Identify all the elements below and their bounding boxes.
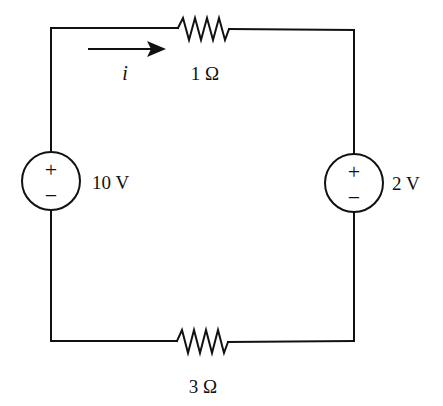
top-wire-right xyxy=(229,29,354,30)
bottom-wire-right xyxy=(228,341,354,342)
v1-plus-sign: + xyxy=(45,157,57,182)
resistor-r1-label: 1 Ω xyxy=(191,63,219,84)
current-label: i xyxy=(122,62,128,84)
v2-minus-sign: − xyxy=(348,185,360,210)
circuit-diagram: + − + − i 1 Ω 3 Ω 10 V 2 V xyxy=(0,0,443,406)
source-v2-label: 2 V xyxy=(392,173,420,194)
v2-plus-sign: + xyxy=(348,159,360,184)
resistor-r2-label: 3 Ω xyxy=(189,376,217,397)
resistor-r2-icon xyxy=(177,330,228,353)
resistor-r1-icon xyxy=(178,18,229,40)
source-v1-label: 10 V xyxy=(92,172,129,193)
v1-minus-sign: − xyxy=(45,183,57,208)
